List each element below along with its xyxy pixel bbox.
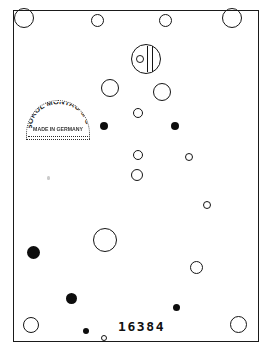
hole-mid-small-lower bbox=[133, 150, 143, 160]
hole-upper-center-left bbox=[101, 79, 119, 97]
hole-upper-center-right bbox=[153, 83, 171, 101]
hole-mid-dot-left bbox=[100, 122, 108, 130]
scanned-card-image: SOKOL MONTAG & Co MADE IN GERMANY 16384 bbox=[0, 0, 270, 354]
serial-number: 16384 bbox=[118, 319, 165, 334]
hole-center-below bbox=[131, 169, 143, 181]
hole-bottom-tiny-open bbox=[101, 335, 107, 341]
hole-center-large bbox=[93, 228, 117, 252]
hole-left-dot-upper bbox=[27, 246, 40, 259]
hole-right-mid bbox=[190, 261, 203, 274]
marked-hole bbox=[131, 44, 161, 74]
hole-top-mid-right bbox=[159, 14, 172, 27]
hole-top-mid-left bbox=[91, 14, 104, 27]
scan-smudge-artifact bbox=[47, 176, 50, 180]
hole-mid-small-center bbox=[133, 108, 143, 118]
hole-top-left bbox=[14, 8, 34, 28]
hole-bottom-left bbox=[23, 317, 39, 333]
marked-hole-bar-left-icon bbox=[147, 46, 148, 71]
stamp-baseline bbox=[28, 136, 88, 137]
hole-mid-dot-right bbox=[171, 122, 179, 130]
manufacturer-stamp: SOKOL MONTAG & Co MADE IN GERMANY bbox=[26, 100, 90, 140]
stamp-arc-label: SOKOL MONTAG & Co bbox=[27, 102, 90, 128]
hole-bottom-tiny-dot bbox=[83, 328, 89, 334]
hole-bottom-right bbox=[230, 316, 247, 333]
hole-right-dot-lower bbox=[173, 304, 180, 311]
hole-left-dot-lower bbox=[66, 293, 77, 304]
stamp-arc-text: SOKOL MONTAG & Co bbox=[27, 102, 90, 128]
hole-right-small-upper bbox=[203, 201, 211, 209]
hole-top-right bbox=[222, 8, 242, 28]
stamp-made-in-label: MADE IN GERMANY bbox=[30, 126, 86, 132]
marked-hole-bar-right-icon bbox=[152, 46, 153, 71]
marked-hole-inner-circle-icon bbox=[136, 55, 144, 63]
hole-mid-small-right bbox=[185, 153, 193, 161]
